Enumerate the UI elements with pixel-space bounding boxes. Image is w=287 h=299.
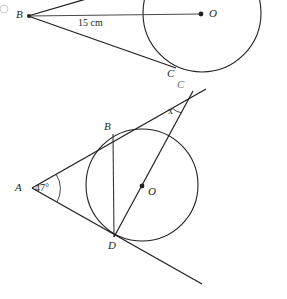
figure-top-group [0, 0, 261, 72]
bottom-angle-arc-c [172, 108, 182, 113]
label-bottom-angle-a: 47° [35, 183, 49, 193]
top-point-b-dot [27, 14, 31, 18]
label-bottom-angle-x: x [168, 106, 173, 116]
diagram-canvas: B O C 15 cm C B x A 47° O D [0, 0, 287, 299]
label-bottom-o: O [148, 186, 156, 197]
edge-artifact-mark [0, 5, 8, 13]
label-bottom-c: C [177, 79, 184, 90]
bottom-point-o-dot [140, 184, 145, 189]
top-circle [143, 0, 261, 72]
label-bottom-b: B [104, 121, 111, 132]
bottom-tangent-a-b-c [32, 89, 206, 188]
label-top-b: B [16, 9, 23, 20]
bottom-angle-arc-a [56, 174, 60, 202]
top-point-o-dot [199, 12, 204, 17]
bottom-tangent-a-d-extended [32, 188, 202, 284]
bottom-chord-b-d [113, 134, 114, 237]
top-line-b-to-o [28, 14, 201, 16]
geometry-drawing [0, 0, 287, 299]
label-top-o: O [209, 8, 217, 19]
label-top-measure-bo: 15 cm [78, 18, 103, 28]
figure-bottom-group [32, 89, 206, 284]
label-bottom-a: A [15, 182, 22, 193]
label-top-c: C [167, 68, 174, 79]
label-bottom-d: D [108, 240, 116, 251]
top-line-b-upper [28, 0, 93, 16]
